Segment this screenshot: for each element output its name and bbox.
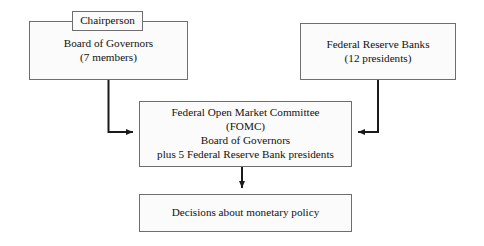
- connector-board-to-fomc: [109, 80, 134, 132]
- chairperson-label: Chairperson: [80, 14, 135, 28]
- node-federal-reserve-banks: Federal Reserve Banks (12 presidents): [300, 23, 456, 80]
- board-of-governors-line-1: Board of Governors: [64, 37, 153, 51]
- fomc-line-2: (FOMC): [226, 120, 265, 134]
- diagram-canvas: Board of Governors (7 members) Chairpers…: [0, 0, 484, 246]
- federal-reserve-banks-line-2: (12 presidents): [345, 52, 412, 66]
- node-decisions: Decisions about monetary policy: [139, 194, 352, 232]
- board-of-governors-line-2: (7 members): [80, 51, 137, 65]
- node-fomc: Federal Open Market Committee (FOMC) Boa…: [139, 101, 352, 167]
- decisions-label: Decisions about monetary policy: [172, 206, 320, 220]
- fomc-line-4: plus 5 Federal Reserve Bank presidents: [157, 148, 334, 162]
- fomc-line-3: Board of Governors: [201, 134, 290, 148]
- federal-reserve-banks-line-1: Federal Reserve Banks: [326, 38, 429, 52]
- node-chairperson: Chairperson: [72, 11, 143, 31]
- fomc-line-1: Federal Open Market Committee: [171, 106, 319, 120]
- connector-frb-to-fomc: [358, 80, 378, 132]
